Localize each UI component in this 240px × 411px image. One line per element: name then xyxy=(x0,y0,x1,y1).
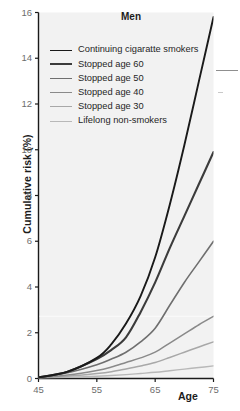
y-tick-label: 8 xyxy=(6,191,32,201)
legend-swatch-line xyxy=(50,63,72,65)
x-tick-label: 65 xyxy=(141,385,169,395)
legend-label: Continuing cigaratte smokers xyxy=(78,45,198,54)
y-tick-label: 2 xyxy=(6,328,32,338)
legend-label: Lifelong non-smokers xyxy=(78,116,167,125)
y-tick-label: 14 xyxy=(6,53,32,63)
y-tick-label: 6 xyxy=(6,236,32,246)
legend-label: Stopped age 30 xyxy=(78,102,144,111)
legend-item: Lifelong non-smokers xyxy=(50,114,198,128)
y-tick-label: 12 xyxy=(6,99,32,109)
x-tick-label: 55 xyxy=(83,385,111,395)
plot-title: Men xyxy=(96,11,166,22)
y-tick-label: 16 xyxy=(6,8,32,18)
y-tick-label: 4 xyxy=(6,282,32,292)
legend-item: Stopped age 40 xyxy=(50,86,198,100)
chart-legend: Continuing cigaratte smokersStopped age … xyxy=(50,43,198,128)
legend-swatch-line xyxy=(50,78,72,79)
legend-item: Stopped age 30 xyxy=(50,100,198,114)
legend-item: Stopped age 50 xyxy=(50,71,198,85)
y-tick-label: 0 xyxy=(6,374,32,384)
legend-swatch-line xyxy=(50,50,72,51)
legend-swatch-line xyxy=(50,121,72,122)
legend-item: Continuing cigaratte smokers xyxy=(50,43,198,57)
legend-label: Stopped age 50 xyxy=(78,74,144,83)
scan-artifact-speck xyxy=(218,92,223,93)
chart-figure: Cumulative risk (%) Age 0246810121416 45… xyxy=(0,0,240,411)
legend-swatch-line xyxy=(50,92,72,93)
scan-artifact-mark xyxy=(216,70,238,71)
y-tick-label: 10 xyxy=(6,145,32,155)
x-tick-label: 45 xyxy=(25,385,53,395)
legend-label: Stopped age 40 xyxy=(78,88,144,97)
x-tick-label: 75 xyxy=(200,385,228,395)
legend-label: Stopped age 60 xyxy=(78,60,144,69)
legend-swatch-line xyxy=(50,106,72,107)
legend-item: Stopped age 60 xyxy=(50,57,198,71)
